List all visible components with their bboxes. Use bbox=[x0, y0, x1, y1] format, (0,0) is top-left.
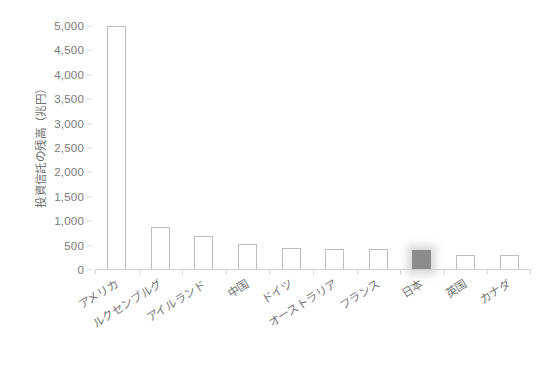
bar-uk[interactable] bbox=[456, 255, 475, 270]
y-tick-mark bbox=[87, 74, 92, 75]
y-tick-mark bbox=[87, 50, 92, 51]
x-label-uk: 英国 bbox=[442, 275, 470, 301]
bar-china[interactable] bbox=[238, 244, 257, 270]
x-label-france: フランス bbox=[336, 275, 383, 313]
bar-slot bbox=[400, 26, 444, 270]
bar-series bbox=[95, 26, 531, 270]
bar-slot bbox=[226, 26, 270, 270]
bar-canada[interactable] bbox=[500, 255, 519, 270]
bar-france[interactable] bbox=[369, 249, 388, 270]
bar-slot bbox=[139, 26, 183, 270]
bar-chart: 投資信託の残高（兆円） 5,000 4,500 4,000 3,500 3,00… bbox=[0, 0, 541, 366]
x-label-china: 中国 bbox=[224, 275, 252, 301]
y-axis-title: 投資信託の残高（兆円） bbox=[30, 20, 50, 270]
bar-slot bbox=[95, 26, 139, 270]
y-tick-mark bbox=[87, 270, 92, 271]
x-label-canada: カナダ bbox=[476, 275, 513, 307]
x-axis-line bbox=[95, 269, 531, 270]
y-tick-mark bbox=[87, 172, 92, 173]
y-axis-title-label: 投資信託の残高（兆円） bbox=[32, 82, 48, 207]
plot-area: 5,000 4,500 4,000 3,500 3,000 2,500 2,00… bbox=[95, 26, 531, 270]
y-tick-mark bbox=[87, 99, 92, 100]
y-tick-mark bbox=[87, 196, 92, 197]
bar-ireland[interactable] bbox=[194, 236, 213, 270]
bar-slot bbox=[444, 26, 488, 270]
bar-slot bbox=[269, 26, 313, 270]
y-tick-mark bbox=[87, 148, 92, 149]
bar-germany[interactable] bbox=[282, 248, 301, 270]
y-tick-mark bbox=[87, 245, 92, 246]
bar-australia[interactable] bbox=[325, 249, 344, 270]
bar-luxembourg[interactable] bbox=[151, 227, 170, 270]
y-tick-mark bbox=[87, 26, 92, 27]
bar-slot bbox=[357, 26, 401, 270]
bar-slot bbox=[487, 26, 531, 270]
bar-slot bbox=[313, 26, 357, 270]
bar-america[interactable] bbox=[107, 26, 126, 270]
y-tick-mark bbox=[87, 221, 92, 222]
y-tick-mark bbox=[87, 123, 92, 124]
bar-slot bbox=[182, 26, 226, 270]
x-axis-labels: アメリカ ルクセンブルグ アイルランド 中国 ドイツ オーストラリア フランス … bbox=[95, 272, 531, 366]
bar-japan-highlighted[interactable] bbox=[412, 250, 431, 270]
x-label-japan: 日本 bbox=[398, 275, 426, 301]
